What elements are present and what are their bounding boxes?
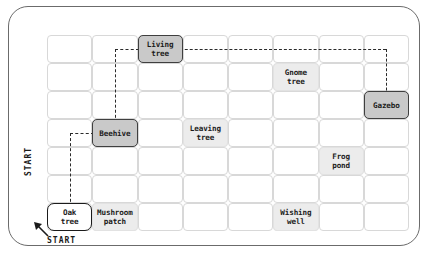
grid-cell[interactable] xyxy=(92,147,137,175)
grid-cell[interactable] xyxy=(138,175,183,203)
cell-frog-pond[interactable]: Frog pond xyxy=(319,147,364,175)
cell-leaving-tree[interactable]: Leaving tree xyxy=(183,119,228,147)
grid-cell[interactable] xyxy=(364,203,409,231)
grid-cell[interactable] xyxy=(273,175,318,203)
grid-cell[interactable] xyxy=(364,119,409,147)
cell-mushroom-patch[interactable]: Mushroom patch xyxy=(92,203,137,231)
grid-cell[interactable] xyxy=(138,119,183,147)
cell-beehive[interactable]: Beehive xyxy=(92,119,137,147)
grid-cell[interactable] xyxy=(319,63,364,91)
cell-living-tree[interactable]: Living tree xyxy=(138,35,183,63)
grid-cell[interactable] xyxy=(92,175,137,203)
grid-cell[interactable] xyxy=(319,91,364,119)
grid-cell[interactable] xyxy=(183,147,228,175)
cell-wishing-well[interactable]: Wishing well xyxy=(273,203,318,231)
grid-cell[interactable] xyxy=(228,119,273,147)
grid-cell[interactable] xyxy=(138,203,183,231)
start-label-bottom: START xyxy=(47,236,76,245)
grid: Living treeGnome treeGazeboBeehiveLeavin… xyxy=(47,35,409,231)
grid-cell[interactable] xyxy=(364,147,409,175)
start-label-left: START xyxy=(24,139,33,185)
grid-cell[interactable] xyxy=(273,119,318,147)
grid-cell[interactable] xyxy=(183,63,228,91)
garden-board: Living treeGnome treeGazeboBeehiveLeavin… xyxy=(8,6,420,246)
grid-cell[interactable] xyxy=(319,203,364,231)
grid-cell[interactable] xyxy=(47,35,92,63)
grid-cell[interactable] xyxy=(319,119,364,147)
grid-cell[interactable] xyxy=(273,147,318,175)
grid-cell[interactable] xyxy=(228,91,273,119)
grid-cell[interactable] xyxy=(183,91,228,119)
grid-cell[interactable] xyxy=(183,203,228,231)
grid-cell[interactable] xyxy=(228,203,273,231)
grid-cell[interactable] xyxy=(273,91,318,119)
grid-cell[interactable] xyxy=(228,63,273,91)
grid-cell[interactable] xyxy=(364,175,409,203)
grid-cell[interactable] xyxy=(138,91,183,119)
cell-oak-tree[interactable]: Oak tree xyxy=(47,203,92,231)
grid-cell[interactable] xyxy=(138,147,183,175)
grid-cell[interactable] xyxy=(47,91,92,119)
grid-cell[interactable] xyxy=(138,63,183,91)
path-segment-living-to-gazebo xyxy=(160,49,386,50)
grid-cell[interactable] xyxy=(47,63,92,91)
cell-gnome-tree[interactable]: Gnome tree xyxy=(273,63,318,91)
cell-gazebo[interactable]: Gazebo xyxy=(364,91,409,119)
grid-cell[interactable] xyxy=(183,175,228,203)
grid-cell[interactable] xyxy=(228,175,273,203)
grid-cell[interactable] xyxy=(319,175,364,203)
grid-cell[interactable] xyxy=(228,147,273,175)
